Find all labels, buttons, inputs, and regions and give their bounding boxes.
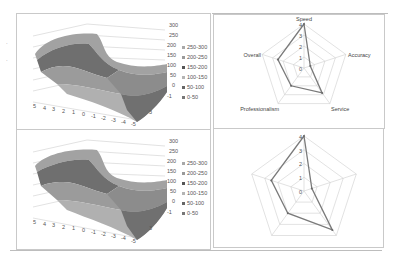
svg-text:0: 0 — [172, 198, 175, 204]
svg-text:-2: -2 — [101, 231, 106, 237]
svg-text:0-50: 0-50 — [187, 210, 198, 216]
svg-text:200: 200 — [167, 42, 176, 48]
svg-text:250: 250 — [169, 148, 178, 154]
svg-text:200: 200 — [167, 158, 176, 164]
svg-text:150: 150 — [167, 168, 176, 174]
row-marker: · — [6, 40, 8, 46]
svg-text:0: 0 — [82, 111, 85, 117]
svg-text:2: 2 — [299, 161, 302, 167]
svg-text:0: 0 — [172, 82, 175, 88]
svg-text:250: 250 — [169, 32, 178, 38]
svg-text:Accuracy: Accuracy — [348, 52, 371, 58]
svg-text:3: 3 — [52, 106, 55, 112]
svg-text:5: 5 — [33, 103, 36, 109]
svg-text:Professionalism: Professionalism — [240, 106, 279, 112]
svg-text:-1: -1 — [167, 93, 172, 99]
svg-text:50: 50 — [170, 72, 176, 78]
svg-text:150: 150 — [167, 52, 176, 58]
svg-text:-3: -3 — [111, 117, 116, 123]
svg-text:300: 300 — [169, 138, 178, 144]
svg-text:4: 4 — [299, 22, 302, 28]
svg-text:150-200: 150-200 — [187, 64, 207, 70]
svg-text:50-100: 50-100 — [187, 84, 204, 90]
svg-text:50: 50 — [170, 188, 176, 194]
svg-text:0: 0 — [82, 227, 85, 233]
radar-chart-top[interactable]: 0 1 2 3 4 Speed Accuracy Service Profess… — [213, 14, 385, 129]
svg-text:1: 1 — [299, 175, 302, 181]
radar-grid — [262, 24, 346, 104]
svg-text:-5: -5 — [131, 121, 136, 127]
radar-chart-bottom[interactable]: 0 1 2 3 4 — [213, 128, 384, 248]
svg-text:Overall: Overall — [244, 52, 261, 58]
svg-text:100-150: 100-150 — [187, 74, 207, 80]
svg-text:0: 0 — [299, 189, 302, 195]
svg-text:1: 1 — [72, 109, 75, 115]
svg-text:200-250: 200-250 — [187, 170, 207, 176]
svg-text:1: 1 — [299, 55, 302, 61]
svg-text:0: 0 — [299, 66, 302, 72]
svg-text:-1: -1 — [91, 113, 96, 119]
svg-text:3: 3 — [299, 148, 302, 154]
svg-text:5: 5 — [33, 219, 36, 225]
svg-text:-1: -1 — [167, 209, 172, 215]
z-axis-ticks: 300 250 200 150 100 50 0 — [167, 22, 178, 88]
svg-text:Service: Service — [331, 106, 349, 112]
svg-text:0-50: 0-50 — [187, 94, 198, 100]
svg-text:-4: -4 — [121, 235, 126, 241]
svg-text:2: 2 — [299, 44, 302, 50]
svg-text:200-250: 200-250 — [187, 54, 207, 60]
svg-text:4: 4 — [299, 134, 302, 140]
svg-text:1: 1 — [72, 225, 75, 231]
svg-text:-5: -5 — [131, 238, 136, 244]
svg-text:2: 2 — [62, 224, 65, 230]
surface-chart-bottom[interactable]: 300 250 200 150 100 50 0 -1 3 5 4 3 2 1 … — [16, 129, 211, 250]
svg-text:4: 4 — [43, 105, 46, 111]
svg-text:-1: -1 — [91, 229, 96, 235]
svg-text:100: 100 — [167, 178, 176, 184]
svg-text:3: 3 — [52, 222, 55, 228]
svg-text:-4: -4 — [121, 119, 126, 125]
legend: 250-300 200-250 150-200 100-150 50-100 0… — [182, 44, 207, 100]
svg-text:300: 300 — [169, 22, 178, 28]
svg-text:-3: -3 — [111, 233, 116, 239]
svg-text:2: 2 — [62, 108, 65, 114]
row-marker: · — [6, 57, 8, 63]
svg-text:250-300: 250-300 — [187, 160, 207, 166]
surface-chart-top[interactable]: 300 250 200 150 100 50 0 -1 3 5 4 3 2 1 … — [16, 13, 211, 130]
svg-text:3: 3 — [149, 109, 152, 115]
svg-text:250-300: 250-300 — [187, 44, 207, 50]
legend: 250-300 200-250 150-200 100-150 50-100 0… — [182, 160, 207, 216]
svg-text:150-200: 150-200 — [187, 180, 207, 186]
svg-text:100: 100 — [167, 62, 176, 68]
svg-text:Speed: Speed — [296, 16, 312, 22]
svg-text:3: 3 — [149, 225, 152, 231]
svg-text:4: 4 — [43, 221, 46, 227]
svg-text:-2: -2 — [101, 115, 106, 121]
svg-text:50-100: 50-100 — [187, 200, 204, 206]
svg-text:100-150: 100-150 — [187, 190, 207, 196]
svg-text:3: 3 — [299, 33, 302, 39]
